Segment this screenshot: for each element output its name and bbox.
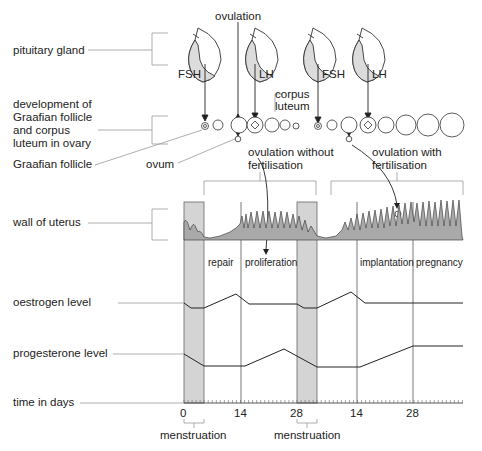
label-ovulation-without-2: fertilisation xyxy=(248,159,303,172)
phase-pregnancy: pregnancy xyxy=(416,256,463,269)
label-graafian-follicle: Graafian follicle xyxy=(13,158,92,171)
tick-14-b: 14 xyxy=(350,407,363,420)
pituitary-gland-icons xyxy=(189,28,385,82)
tick-28: 28 xyxy=(290,407,303,420)
label-ovulation-with-1: ovulation with xyxy=(372,146,442,159)
phase-repair: repair xyxy=(208,256,234,269)
arrowhead xyxy=(263,249,269,255)
label-ovary-line3: and corpus xyxy=(13,124,70,137)
label-menstruation-2: menstruation xyxy=(274,429,340,442)
tick-0: 0 xyxy=(180,407,186,420)
hormone-fsh-2: FSH xyxy=(322,68,345,81)
tick-28-b: 28 xyxy=(406,407,419,420)
tick-14: 14 xyxy=(234,407,247,420)
label-progesterone-level: progesterone level xyxy=(13,347,108,360)
phase-implantation: implantation xyxy=(360,256,414,269)
label-ovary-line1: development of xyxy=(13,98,92,111)
label-pituitary-gland: pituitary gland xyxy=(13,44,85,57)
label-time-in-days: time in days xyxy=(13,396,74,409)
phase-proliferation: proliferation xyxy=(245,256,297,269)
label-ovum: ovum xyxy=(146,158,174,171)
label-ovulation: ovulation xyxy=(215,10,261,23)
oestrogen-line xyxy=(184,292,463,308)
label-oestrogen-level: oestrogen level xyxy=(13,296,91,309)
label-ovulation-without-1: ovulation without xyxy=(248,146,334,159)
hormone-lh-2: LH xyxy=(372,68,387,81)
label-menstruation-1: menstruation xyxy=(160,429,226,442)
progesterone-line xyxy=(184,346,463,367)
hormone-lh-1: LH xyxy=(259,68,274,81)
uterus-wall-shape xyxy=(184,200,463,240)
hormone-fsh-1: FSH xyxy=(178,68,201,81)
label-ovary-line4: luteum in ovary xyxy=(13,137,91,150)
label-corpus-luteum-2: luteum xyxy=(275,100,310,113)
label-ovulation-with-2: fertilisation xyxy=(372,159,427,172)
label-wall-of-uterus: wall of uterus xyxy=(13,216,81,229)
label-ovary-line2: Graafian follicle xyxy=(13,111,92,124)
